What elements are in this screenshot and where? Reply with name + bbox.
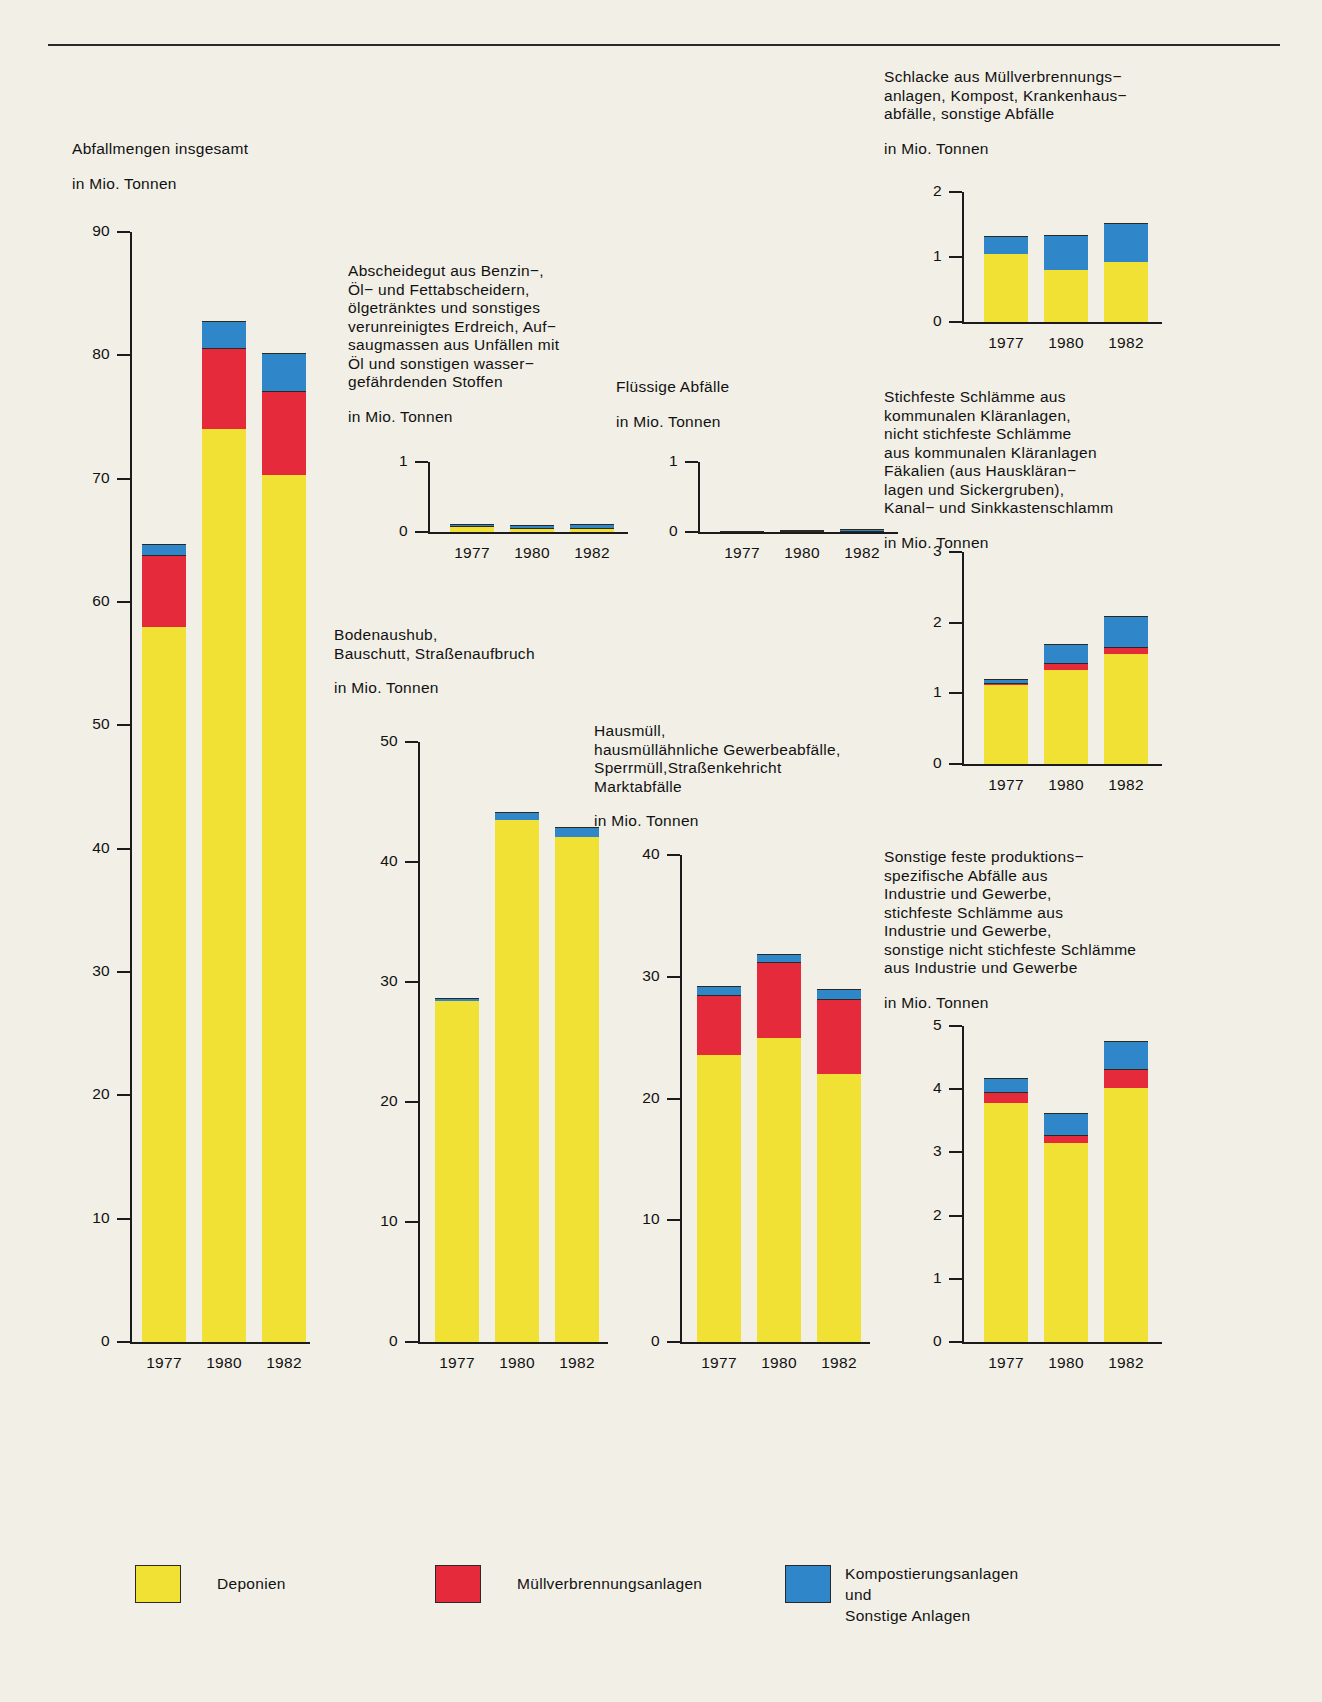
y-tick-sonstige-feste-produktionsspezifische-1 bbox=[949, 1278, 962, 1280]
bar-sonstige-feste-produktionsspezifische-1977 bbox=[984, 1026, 1028, 1342]
bar-segment-abscheidegut-1977-yellow bbox=[450, 526, 494, 532]
y-tick-fluessige-abfaelle-0 bbox=[685, 531, 698, 533]
bar-schlacke-kompost-krankenhaus-1982 bbox=[1104, 192, 1148, 322]
x-axis-bodenaushub-bauschutt bbox=[418, 1342, 608, 1344]
y-tick-label-bodenaushub-bauschutt-40: 40 bbox=[342, 852, 398, 870]
y-tick-abfallmengen-insgesamt-40 bbox=[117, 848, 130, 850]
bar-segment-fluessige-abfaelle-1980-blue bbox=[780, 530, 824, 531]
panel-unit-abscheidegut: in Mio. Tonnen bbox=[348, 408, 618, 426]
y-tick-abfallmengen-insgesamt-90 bbox=[117, 231, 130, 233]
bar-segment-abfallmengen-insgesamt-1980-yellow bbox=[202, 429, 246, 1342]
y-tick-abscheidegut-0 bbox=[415, 531, 428, 533]
y-tick-bodenaushub-bauschutt-40 bbox=[405, 861, 418, 863]
y-tick-label-abfallmengen-insgesamt-40: 40 bbox=[54, 839, 110, 857]
bar-segment-stichfeste-schlaemme-1980-blue bbox=[1044, 644, 1088, 663]
bar-segment-abscheidegut-1982-red bbox=[570, 528, 614, 529]
bar-segment-abscheidegut-1980-red bbox=[510, 528, 554, 529]
bar-segment-bodenaushub-bauschutt-1977-blue bbox=[435, 998, 479, 1002]
y-tick-bodenaushub-bauschutt-20 bbox=[405, 1101, 418, 1103]
bar-segment-stichfeste-schlaemme-1982-blue bbox=[1104, 616, 1148, 647]
legend-swatch-kompostierungsanlagen bbox=[785, 1565, 831, 1603]
panel-title-fluessige-abfaelle: Flüssige Abfälle bbox=[616, 378, 866, 397]
bar-segment-stichfeste-schlaemme-1982-yellow bbox=[1104, 654, 1148, 764]
bar-abscheidegut-1977 bbox=[450, 462, 494, 532]
y-tick-abfallmengen-insgesamt-60 bbox=[117, 601, 130, 603]
bar-segment-abfallmengen-insgesamt-1980-red bbox=[202, 348, 246, 429]
bar-segment-hausmuell-1982-blue bbox=[817, 989, 861, 999]
bar-segment-bodenaushub-bauschutt-1980-blue bbox=[495, 812, 539, 820]
bar-bodenaushub-bauschutt-1982 bbox=[555, 742, 599, 1342]
bar-abfallmengen-insgesamt-1982 bbox=[262, 232, 306, 1342]
y-tick-label-hausmuell-30: 30 bbox=[604, 967, 660, 985]
plot-stichfeste-schlaemme: 0123197719801982 bbox=[962, 552, 1162, 764]
x-axis-abfallmengen-insgesamt bbox=[130, 1342, 310, 1344]
panel-hausmuell: Hausmüll, hausmüllähnliche Gewerbeabfäll… bbox=[594, 722, 894, 830]
bar-segment-sonstige-feste-produktionsspezifische-1977-blue bbox=[984, 1078, 1028, 1091]
y-tick-sonstige-feste-produktionsspezifische-5 bbox=[949, 1025, 962, 1027]
plot-schlacke-kompost-krankenhaus: 012197719801982 bbox=[962, 192, 1162, 322]
bar-hausmuell-1977 bbox=[697, 855, 741, 1342]
panel-schlacke-kompost-krankenhaus: Schlacke aus Müllverbrennungs− anlagen, … bbox=[884, 68, 1184, 158]
y-tick-abfallmengen-insgesamt-10 bbox=[117, 1218, 130, 1220]
y-tick-label-stichfeste-schlaemme-3: 3 bbox=[886, 542, 942, 560]
bar-segment-schlacke-kompost-krankenhaus-1980-blue bbox=[1044, 235, 1088, 270]
panel-unit-bodenaushub-bauschutt: in Mio. Tonnen bbox=[334, 679, 634, 697]
y-tick-label-bodenaushub-bauschutt-30: 30 bbox=[342, 972, 398, 990]
bar-segment-abfallmengen-insgesamt-1980-blue bbox=[202, 321, 246, 348]
bar-segment-sonstige-feste-produktionsspezifische-1980-yellow bbox=[1044, 1143, 1088, 1342]
bar-segment-abfallmengen-insgesamt-1982-red bbox=[262, 391, 306, 475]
y-tick-abscheidegut-1 bbox=[415, 461, 428, 463]
bar-segment-sonstige-feste-produktionsspezifische-1982-red bbox=[1104, 1069, 1148, 1088]
bar-stichfeste-schlaemme-1977 bbox=[984, 552, 1028, 764]
panel-abscheidegut: Abscheidegut aus Benzin−, Öl− und Fettab… bbox=[348, 262, 618, 426]
y-tick-abfallmengen-insgesamt-70 bbox=[117, 478, 130, 480]
panel-stichfeste-schlaemme: Stichfeste Schlämme aus kommunalen Klära… bbox=[884, 388, 1184, 552]
bar-segment-abscheidegut-1977-blue bbox=[450, 524, 494, 525]
panel-unit-fluessige-abfaelle: in Mio. Tonnen bbox=[616, 413, 866, 431]
y-tick-label-hausmuell-0: 0 bbox=[604, 1332, 660, 1350]
panel-abfallmengen-insgesamt: Abfallmengen insgesamtin Mio. Tonnen bbox=[72, 140, 392, 193]
y-tick-label-bodenaushub-bauschutt-50: 50 bbox=[342, 732, 398, 750]
panel-title-stichfeste-schlaemme: Stichfeste Schlämme aus kommunalen Klära… bbox=[884, 388, 1184, 518]
bar-segment-bodenaushub-bauschutt-1982-blue bbox=[555, 827, 599, 837]
x-tick-label-bodenaushub-bauschutt-1982: 1982 bbox=[541, 1354, 613, 1372]
legend: Deponien Müllverbrennungsanlagen Kompost… bbox=[0, 1545, 1322, 1635]
y-tick-label-abfallmengen-insgesamt-0: 0 bbox=[54, 1332, 110, 1350]
x-tick-label-stichfeste-schlaemme-1982: 1982 bbox=[1090, 776, 1162, 794]
y-tick-label-fluessige-abfaelle-1: 1 bbox=[622, 452, 678, 470]
x-axis-abscheidegut bbox=[428, 532, 628, 534]
panel-title-sonstige-feste-produktionsspezifische: Sonstige feste produktions− spezifische … bbox=[884, 848, 1204, 978]
y-tick-label-abfallmengen-insgesamt-10: 10 bbox=[54, 1209, 110, 1227]
bar-segment-sonstige-feste-produktionsspezifische-1977-yellow bbox=[984, 1103, 1028, 1342]
bar-fluessige-abfaelle-1980 bbox=[780, 462, 824, 532]
bar-segment-stichfeste-schlaemme-1977-blue bbox=[984, 679, 1028, 683]
y-tick-label-hausmuell-20: 20 bbox=[604, 1089, 660, 1107]
y-tick-schlacke-kompost-krankenhaus-1 bbox=[949, 256, 962, 258]
y-tick-label-stichfeste-schlaemme-0: 0 bbox=[886, 754, 942, 772]
y-tick-hausmuell-30 bbox=[667, 976, 680, 978]
plot-hausmuell: 010203040197719801982 bbox=[680, 855, 870, 1342]
x-tick-label-abscheidegut-1982: 1982 bbox=[556, 544, 628, 562]
bar-segment-hausmuell-1980-blue bbox=[757, 954, 801, 963]
y-tick-label-abfallmengen-insgesamt-80: 80 bbox=[54, 345, 110, 363]
y-tick-label-abscheidegut-0: 0 bbox=[352, 522, 408, 540]
bar-segment-schlacke-kompost-krankenhaus-1982-blue bbox=[1104, 223, 1148, 262]
y-tick-sonstige-feste-produktionsspezifische-0 bbox=[949, 1341, 962, 1343]
bar-segment-sonstige-feste-produktionsspezifische-1980-red bbox=[1044, 1135, 1088, 1143]
plot-abfallmengen-insgesamt: 0102030405060708090197719801982 bbox=[130, 232, 310, 1342]
legend-label-kompostierungsanlagen: Kompostierungsanlagen und Sonstige Anlag… bbox=[845, 1563, 1018, 1626]
y-tick-label-fluessige-abfaelle-0: 0 bbox=[622, 522, 678, 540]
panel-bodenaushub-bauschutt: Bodenaushub, Bauschutt, Straßenaufbruchi… bbox=[334, 626, 634, 697]
y-axis-fluessige-abfaelle bbox=[698, 462, 700, 532]
panel-unit-abfallmengen-insgesamt: in Mio. Tonnen bbox=[72, 175, 392, 193]
bar-segment-fluessige-abfaelle-1982-red bbox=[840, 531, 884, 532]
y-tick-label-schlacke-kompost-krankenhaus-1: 1 bbox=[886, 247, 942, 265]
y-tick-label-hausmuell-10: 10 bbox=[604, 1210, 660, 1228]
panel-fluessige-abfaelle: Flüssige Abfällein Mio. Tonnen bbox=[616, 378, 866, 431]
y-axis-bodenaushub-bauschutt bbox=[418, 742, 420, 1342]
y-tick-sonstige-feste-produktionsspezifische-4 bbox=[949, 1088, 962, 1090]
y-tick-label-abfallmengen-insgesamt-90: 90 bbox=[54, 222, 110, 240]
y-tick-label-sonstige-feste-produktionsspezifische-1: 1 bbox=[886, 1269, 942, 1287]
y-tick-label-abfallmengen-insgesamt-30: 30 bbox=[54, 962, 110, 980]
bar-segment-hausmuell-1982-red bbox=[817, 999, 861, 1074]
